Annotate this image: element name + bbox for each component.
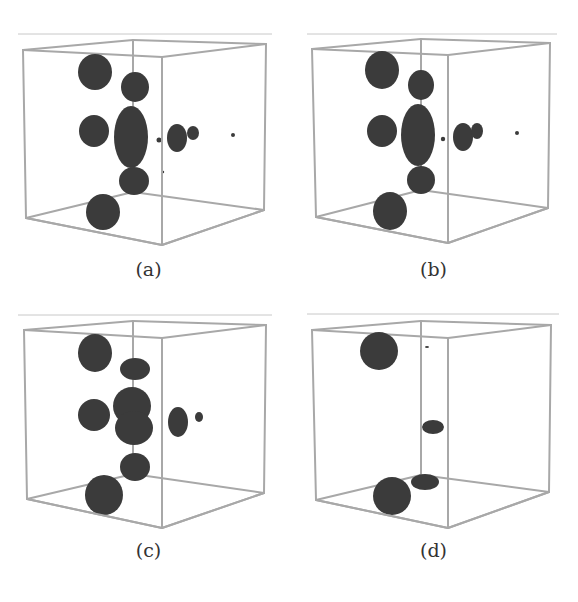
isosurface-blob xyxy=(121,72,149,102)
isosurface-blobs xyxy=(365,51,519,230)
isosurface-blob xyxy=(78,399,110,431)
isosurface-blob xyxy=(167,124,187,152)
isosurface-blob xyxy=(401,104,435,166)
cube-edge xyxy=(312,49,316,217)
cube-edge xyxy=(162,44,266,57)
cube-edge xyxy=(133,40,266,44)
panel-caption: (c) xyxy=(4,539,293,561)
isosurface-blob xyxy=(120,453,150,481)
cube-plot xyxy=(0,281,289,582)
cube-edge xyxy=(23,50,26,218)
isosurface-blob xyxy=(231,133,235,137)
panel-caption: (a) xyxy=(4,258,293,280)
cube-edge xyxy=(421,190,548,208)
panel-a: (a) xyxy=(0,0,289,301)
isosurface-blob xyxy=(114,106,148,168)
cube-edge xyxy=(133,192,264,210)
isosurface-blob xyxy=(79,115,109,147)
cube-edge xyxy=(24,321,133,330)
cube-edge xyxy=(312,321,421,330)
cube-edge xyxy=(264,44,266,210)
isosurface-blob xyxy=(120,358,150,380)
isosurface-blob xyxy=(157,138,162,143)
isosurface-blob xyxy=(168,407,188,437)
cube-front-edge xyxy=(448,492,549,528)
cube-edge xyxy=(133,321,266,325)
cube-plot xyxy=(0,0,289,301)
cube-edge xyxy=(312,39,421,49)
cube-edge xyxy=(548,43,550,208)
cube-edge xyxy=(549,325,551,492)
isosurface-blob xyxy=(441,137,445,141)
cube-front-edge xyxy=(448,208,548,243)
isosurface-blob xyxy=(408,70,434,100)
isosurface-blob xyxy=(195,412,203,422)
isosurface-blob xyxy=(78,54,112,90)
cube-edge xyxy=(421,39,550,43)
cube-edge xyxy=(162,325,266,338)
isosurface-blob xyxy=(119,167,149,195)
isosurface-blob xyxy=(373,192,407,230)
panel-caption: (d) xyxy=(289,539,578,561)
isosurface-blob xyxy=(411,474,439,490)
panel-b: (b) xyxy=(289,0,578,301)
panel-c: (c) xyxy=(0,281,289,582)
panel-caption: (b) xyxy=(289,258,578,280)
cube-front-edge xyxy=(162,493,264,528)
isosurface-blob xyxy=(407,166,435,194)
isosurface-blob xyxy=(78,334,112,372)
isosurface-blob xyxy=(422,420,444,434)
cube-plot xyxy=(289,281,578,582)
cube-edge xyxy=(24,330,27,499)
isosurface-blob xyxy=(86,194,120,230)
cube-edge xyxy=(23,40,133,50)
cube-edge xyxy=(264,325,266,493)
isosurface-blob xyxy=(367,115,397,147)
cube-edge xyxy=(448,325,551,338)
isosurface-blob xyxy=(365,51,399,89)
cube-edge xyxy=(421,321,551,325)
isosurface-blob xyxy=(115,411,153,445)
isosurface-blob xyxy=(453,123,473,151)
isosurface-blob xyxy=(187,126,199,140)
panel-d: (d) xyxy=(289,281,578,582)
cube-edge xyxy=(421,475,549,492)
isosurface-blob xyxy=(515,131,519,135)
isosurface-blob xyxy=(373,477,411,515)
cube-edge xyxy=(448,43,550,55)
isosurface-blob xyxy=(360,332,398,370)
isosurface-blob xyxy=(425,346,429,348)
isosurface-blob xyxy=(85,475,123,515)
cube-edge xyxy=(312,330,316,500)
cube-plot xyxy=(289,0,578,301)
cube-edge xyxy=(133,474,264,493)
cube-front-edge xyxy=(162,210,264,245)
isosurface-blob xyxy=(471,123,483,139)
isosurface-blobs xyxy=(78,334,203,515)
